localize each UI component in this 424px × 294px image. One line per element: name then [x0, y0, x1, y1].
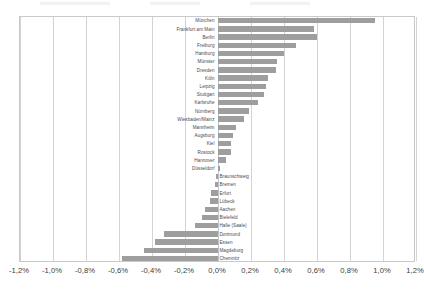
bar-row: Bremen — [20, 181, 414, 189]
x-tick-label: 1,0% — [373, 266, 391, 275]
bar — [218, 67, 276, 72]
bar-row: Dortmund — [20, 230, 414, 238]
bar-row: Mannheim — [20, 124, 414, 132]
x-tick-label: 0,4% — [274, 266, 292, 275]
bar — [218, 18, 375, 23]
bar-row: Rostock — [20, 148, 414, 156]
x-tick-label: -0,4% — [141, 266, 161, 275]
bar — [218, 92, 264, 97]
bar-row: Lübeck — [20, 197, 414, 205]
bar — [211, 190, 218, 195]
bar-row: Erfurt — [20, 189, 414, 197]
bar — [144, 248, 218, 253]
x-tick-label: -0,8% — [75, 266, 95, 275]
bar — [218, 43, 296, 48]
bar — [218, 84, 266, 89]
bar — [205, 207, 218, 212]
bar-row: Nürnberg — [20, 107, 414, 115]
top-edge-artifact — [0, 0, 423, 14]
bar — [155, 239, 218, 244]
bar-row: Berlin — [20, 33, 414, 41]
bar-row: Magdeburg — [20, 247, 414, 255]
bar — [218, 166, 220, 171]
x-tick-label: 1,2% — [406, 266, 424, 275]
plot-area: MünchenFrankfurt am MainBerlinFreiburgHa… — [19, 16, 415, 262]
bar — [218, 59, 277, 64]
bar-row: Freiburg — [20, 42, 414, 50]
bar — [218, 75, 268, 80]
bar — [216, 174, 218, 179]
bar — [218, 141, 231, 146]
bar-row: Hannover — [20, 156, 414, 164]
bar — [164, 231, 218, 236]
bar-row: Karlsruhe — [20, 99, 414, 107]
x-tick-label: -0,2% — [174, 266, 194, 275]
x-tick-label: -1,2% — [9, 266, 29, 275]
gridline — [416, 17, 417, 261]
x-tick-label: 0,6% — [307, 266, 325, 275]
bar-row: Düsseldorf — [20, 165, 414, 173]
x-tick-label: -1,0% — [42, 266, 62, 275]
bar-row: Aachen — [20, 206, 414, 214]
bar — [218, 157, 226, 162]
bar-row: Kiel — [20, 140, 414, 148]
x-tick-label: 0,8% — [340, 266, 358, 275]
bar-category-label: Düsseldorf — [192, 164, 214, 173]
x-tick-label: 0,0% — [208, 266, 226, 275]
bar — [122, 256, 218, 261]
bar-row: Stuttgart — [20, 91, 414, 99]
bar-row: Köln — [20, 74, 414, 82]
bar — [218, 34, 317, 39]
bar — [218, 125, 236, 130]
x-tick-label: 0,2% — [241, 266, 259, 275]
bar — [202, 215, 219, 220]
bar — [210, 198, 218, 203]
bar — [218, 149, 231, 154]
bar — [218, 51, 284, 56]
bar-row: Augsburg — [20, 132, 414, 140]
bar-row: Halle (Saale) — [20, 222, 414, 230]
bar — [218, 108, 249, 113]
bar-rows: MünchenFrankfurt am MainBerlinFreiburgHa… — [20, 17, 414, 261]
bar-row: München — [20, 17, 414, 25]
bar-row: Dresden — [20, 66, 414, 74]
bar-row: Chemnitz — [20, 255, 414, 263]
bar — [195, 223, 218, 228]
bar-row: Münster — [20, 58, 414, 66]
x-tick-label: -0,6% — [108, 266, 128, 275]
bar-row: Braunschweig — [20, 173, 414, 181]
bar-row: Essen — [20, 238, 414, 246]
x-axis-tick-labels: -1,2%-1,0%-0,8%-0,6%-0,4%-0,2%0,0%0,2%0,… — [0, 266, 423, 280]
bar — [218, 100, 258, 105]
bar-row: Frankfurt am Main — [20, 25, 414, 33]
bar — [218, 26, 314, 31]
bar-row: Bielefeld — [20, 214, 414, 222]
bar — [218, 116, 244, 121]
bar — [218, 133, 233, 138]
bar-category-label: Chemnitz — [220, 254, 240, 263]
bar-row: Hamburg — [20, 50, 414, 58]
bar-row: Wiesbaden/Mainz — [20, 115, 414, 123]
bar-row: Leipzig — [20, 83, 414, 91]
bar — [215, 182, 218, 187]
